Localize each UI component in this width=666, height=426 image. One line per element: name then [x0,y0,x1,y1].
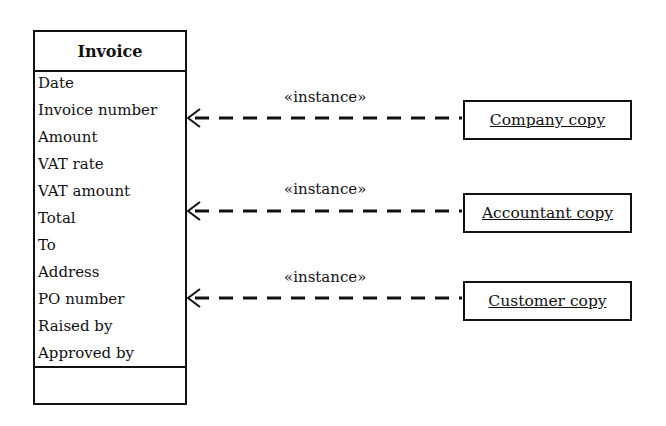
class-name: Invoice [35,32,185,72]
attribute: Total [38,209,76,227]
instance-name: Accountant copy [482,204,613,222]
attribute: PO number [38,290,124,308]
instance-company-copy[interactable]: Company copy [463,100,632,140]
invoice-class-box[interactable]: Invoice Date Invoice number Amount VAT r… [33,30,187,405]
attribute: Amount [38,128,97,146]
stereotype-label: «instance» [284,88,366,106]
attribute: VAT rate [38,155,104,173]
attribute: Raised by [38,317,112,335]
instance-name: Customer copy [488,292,606,310]
attributes-compartment: Date Invoice number Amount VAT rate VAT … [35,72,185,368]
attribute: Date [38,74,74,92]
stereotype-label: «instance» [284,180,366,198]
attribute: To [38,236,56,254]
attribute: VAT amount [38,182,130,200]
attribute: Approved by [38,344,134,362]
attribute: Invoice number [38,101,157,119]
attribute: Address [38,263,99,281]
instance-accountant-copy[interactable]: Accountant copy [463,193,632,233]
instance-customer-copy[interactable]: Customer copy [463,281,632,321]
instance-name: Company copy [490,111,605,129]
stereotype-label: «instance» [284,268,366,286]
operations-compartment [35,368,185,403]
